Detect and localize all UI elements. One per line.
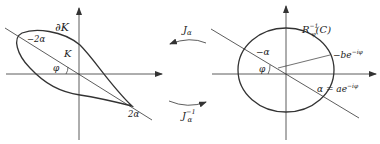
- conformal-map-diagram: ∂K −2α K φ 2α Jα J−1α R−1φ(C) −α −be−iφ …: [0, 0, 380, 144]
- region-label: K: [63, 48, 72, 59]
- angle-label: φ: [53, 63, 60, 73]
- center-label: −be−iφ: [333, 48, 364, 60]
- forward-map-label: Jα: [181, 24, 192, 37]
- right-pos-point-label: α = ae−iφ: [317, 82, 359, 94]
- inverse-map-arrow: [169, 101, 206, 105]
- angle-arc: [66, 67, 68, 74]
- pos-point-label: 2α: [127, 109, 139, 119]
- inverse-map-label: J−1α: [180, 108, 196, 124]
- right-angle-arc: [268, 65, 270, 74]
- right-symmetry-line: [211, 29, 359, 118]
- boundary-label: ∂K: [55, 21, 70, 34]
- right-angle-label: φ: [259, 64, 266, 74]
- forward-map-arrow: [170, 40, 206, 44]
- neg-point-label: −2α: [27, 34, 46, 44]
- right-neg-point-label: −α: [256, 47, 270, 57]
- right-diagram: R−1φ(C) −α −be−iφ φ α = ae−iφ: [211, 6, 376, 140]
- circle-label: R−1φ(C): [301, 22, 331, 38]
- left-diagram: ∂K −2α K φ 2α: [5, 8, 162, 140]
- map-arrows: Jα J−1α: [169, 24, 206, 124]
